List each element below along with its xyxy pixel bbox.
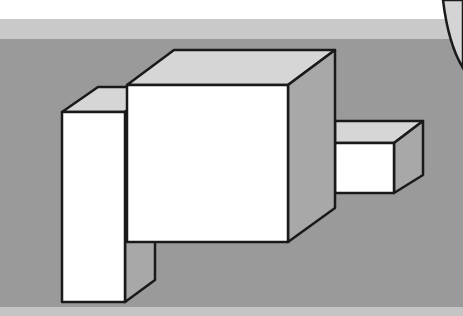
- small-right-block: [335, 121, 423, 193]
- cube-side-face: [288, 50, 335, 242]
- illustration-scene: [0, 0, 463, 316]
- small-block-front-face: [335, 143, 394, 193]
- corner-curve-shape: [443, 0, 463, 68]
- cube-front-face: [127, 85, 288, 242]
- blocks-drawing: [0, 0, 463, 316]
- large-center-cube: [127, 50, 335, 242]
- tall-block-front-face: [62, 112, 125, 302]
